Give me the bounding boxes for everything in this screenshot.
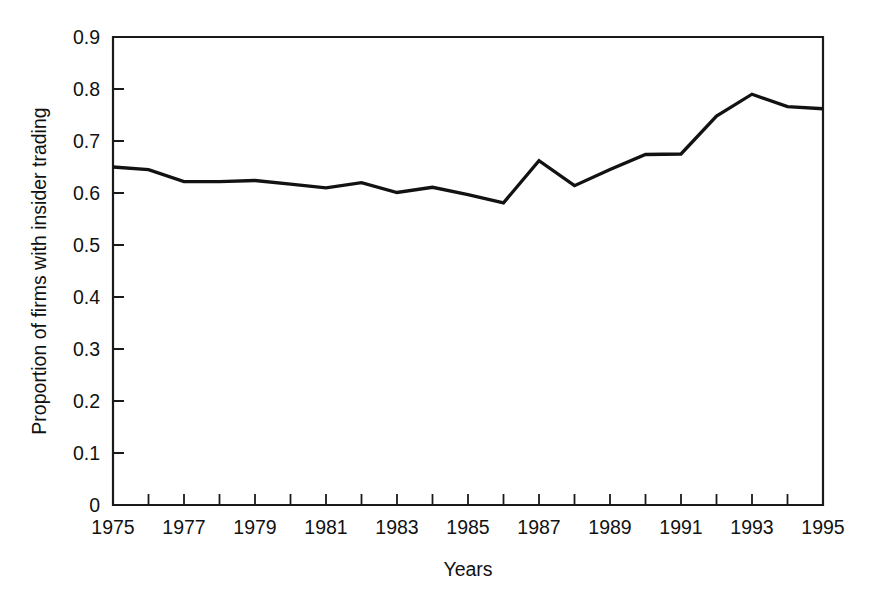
y-axis-title: Proportion of firms with insider trading bbox=[28, 107, 50, 434]
y-tick-label: 0.1 bbox=[73, 442, 100, 464]
y-tick-label: 0.7 bbox=[73, 130, 100, 152]
line-chart: 00.10.20.30.40.50.60.70.80.9 19751977197… bbox=[0, 0, 882, 597]
x-tick-label: 1989 bbox=[588, 516, 631, 538]
data-series-insider-trading bbox=[113, 94, 823, 203]
y-tick-label: 0.6 bbox=[73, 182, 100, 204]
x-tick-label: 1979 bbox=[233, 516, 276, 538]
x-tick-label: 1981 bbox=[304, 516, 347, 538]
x-axis-tick-labels: 1975197719791981198319851987198919911993… bbox=[91, 516, 845, 538]
y-tick-label: 0.5 bbox=[73, 234, 100, 256]
y-axis-tick-labels: 00.10.20.30.40.50.60.70.80.9 bbox=[73, 26, 100, 516]
x-tick-label: 1975 bbox=[91, 516, 135, 538]
x-axis-title: Years bbox=[443, 558, 492, 580]
y-tick-label: 0 bbox=[89, 494, 100, 516]
chart-figure: 00.10.20.30.40.50.60.70.80.9 19751977197… bbox=[0, 0, 882, 597]
x-tick-label: 1983 bbox=[375, 516, 418, 538]
x-tick-label: 1991 bbox=[659, 516, 702, 538]
y-tick-label: 0.8 bbox=[73, 78, 100, 100]
x-tick-label: 1985 bbox=[446, 516, 490, 538]
x-tick-label: 1993 bbox=[730, 516, 773, 538]
x-tick-label: 1995 bbox=[801, 516, 845, 538]
x-tick-label: 1987 bbox=[517, 516, 560, 538]
plot-frame bbox=[113, 37, 823, 505]
y-tick-label: 0.3 bbox=[73, 338, 100, 360]
x-axis-ticks bbox=[149, 494, 788, 505]
y-axis-ticks bbox=[113, 89, 124, 453]
y-tick-label: 0.9 bbox=[73, 26, 100, 48]
x-tick-label: 1977 bbox=[162, 516, 205, 538]
y-tick-label: 0.4 bbox=[73, 286, 100, 308]
y-tick-label: 0.2 bbox=[73, 390, 100, 412]
